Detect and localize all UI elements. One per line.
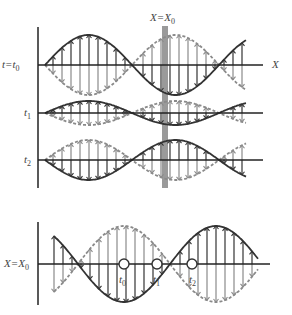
bottom-axis-label: X=X0	[4, 258, 29, 272]
point-t2-marker	[187, 259, 197, 269]
point-t2-label: t2	[189, 274, 196, 288]
position-marker-label: X=X0	[150, 12, 175, 26]
x-axis-label: X	[272, 59, 279, 70]
point-t1-label: t1	[153, 274, 160, 288]
row-t1-label: t1	[24, 107, 31, 121]
point-t1-marker	[152, 259, 162, 269]
wave-diagram	[0, 0, 292, 315]
point-t0-marker	[119, 259, 129, 269]
point-t0-label: t0	[119, 274, 126, 288]
row-t0-label: t=t0	[2, 59, 20, 73]
position-marker-bar	[162, 26, 168, 188]
row-t2-label: t2	[24, 154, 31, 168]
